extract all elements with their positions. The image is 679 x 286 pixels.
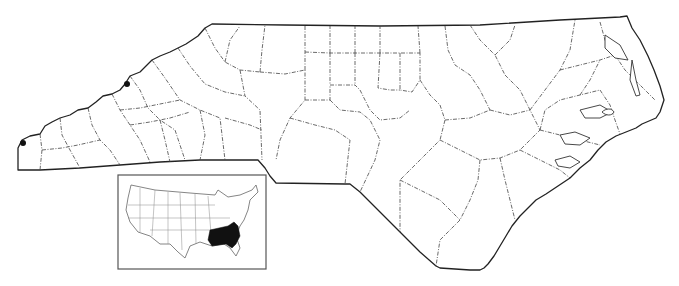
record-dot [20, 140, 26, 146]
map-figure: North Carolina county map [0, 0, 679, 286]
record-dot [124, 81, 130, 87]
us-inset [118, 175, 266, 269]
nc-map [0, 0, 679, 286]
